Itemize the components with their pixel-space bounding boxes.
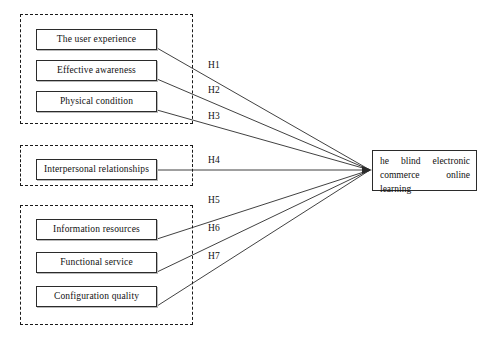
hypothesis-label-h7: H7 <box>208 251 220 261</box>
hypothesis-label-h5: H5 <box>208 195 220 205</box>
node-target-outcome[interactable]: he blind electronic commerce online lear… <box>372 150 477 191</box>
hypothesis-label-h3: H3 <box>208 111 220 121</box>
node-the-user-experience[interactable]: The user experience <box>36 29 157 50</box>
node-functional-service[interactable]: Functional service <box>36 252 157 273</box>
hypothesis-label-h1: H1 <box>208 60 220 70</box>
arrowhead-target <box>362 166 372 174</box>
node-effective-awareness[interactable]: Effective awareness <box>36 60 157 81</box>
hypothesis-label-h2: H2 <box>208 85 220 95</box>
hypothesis-label-h4: H4 <box>208 155 220 165</box>
hypothesis-label-h6: H6 <box>208 223 220 233</box>
diagram-canvas: The user experience Effective awareness … <box>0 0 492 348</box>
node-physical-condition[interactable]: Physical condition <box>36 91 157 112</box>
node-information-resources[interactable]: Information resources <box>36 219 157 240</box>
node-configuration-quality[interactable]: Configuration quality <box>36 286 157 307</box>
node-interpersonal-relationships[interactable]: Interpersonal relationships <box>36 159 157 180</box>
